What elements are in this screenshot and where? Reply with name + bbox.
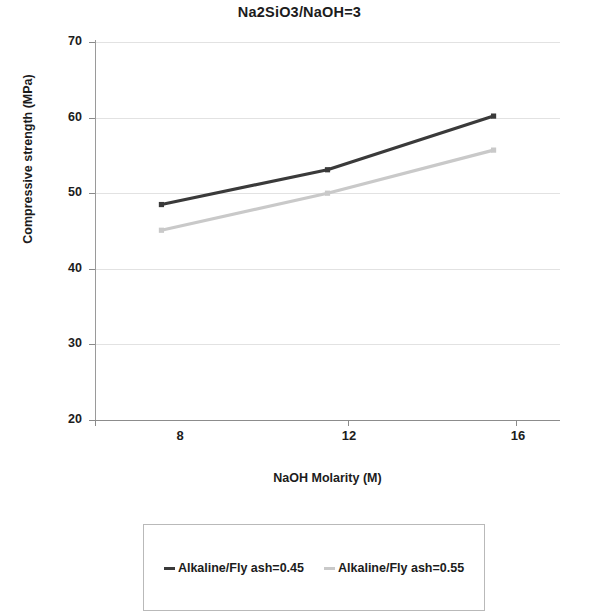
x-axis-title: NaOH Molarity (M) [95, 471, 560, 485]
y-tick-label-70: 70 [42, 34, 82, 48]
chart-title: Na2SiO3/NaOH=3 [0, 4, 599, 20]
x-tick-mark-12 [348, 420, 349, 426]
chart-figure: Na2SiO3/NaOH=3 Compressive strength (MPa… [0, 0, 599, 611]
x-tick-label-12: 12 [319, 428, 379, 443]
gridline-50 [95, 193, 560, 194]
y-tick-label-40: 40 [42, 261, 82, 275]
y-tick-mark-30 [89, 344, 95, 345]
x-tick-label-8: 8 [150, 428, 210, 443]
y-tick-label-30: 30 [42, 336, 82, 350]
y-axis-line [95, 40, 96, 421]
y-tick-label-20: 20 [42, 412, 82, 426]
legend-entry-1[interactable]: Alkaline/Fly ash=0.55 [324, 561, 464, 575]
legend-label-1: Alkaline/Fly ash=0.55 [338, 561, 464, 575]
legend: Alkaline/Fly ash=0.45 Alkaline/Fly ash=0… [143, 558, 485, 578]
legend-entry-0[interactable]: Alkaline/Fly ash=0.45 [164, 561, 304, 575]
x-tick-mark-16 [516, 420, 517, 426]
gridline-40 [95, 269, 560, 270]
legend-label-0: Alkaline/Fly ash=0.45 [178, 561, 304, 575]
y-tick-label-60: 60 [42, 110, 82, 124]
plot-area [95, 42, 560, 420]
y-axis-title: Compressive strength (MPa) [21, 49, 35, 269]
x-tick-mark-left-edge [95, 420, 96, 426]
y-tick-mark-50 [89, 193, 95, 194]
gridline-70 [95, 42, 560, 43]
y-tick-mark-70 [89, 42, 95, 43]
legend-swatch-icon-0 [164, 567, 175, 570]
y-tick-mark-60 [89, 118, 95, 119]
x-tick-label-16: 16 [488, 428, 548, 443]
gridline-30 [95, 344, 560, 345]
legend-swatch-icon-1 [324, 567, 335, 570]
gridline-60 [95, 118, 560, 119]
y-tick-mark-40 [89, 269, 95, 270]
y-tick-label-50: 50 [42, 185, 82, 199]
x-axis-baseline [95, 420, 560, 421]
